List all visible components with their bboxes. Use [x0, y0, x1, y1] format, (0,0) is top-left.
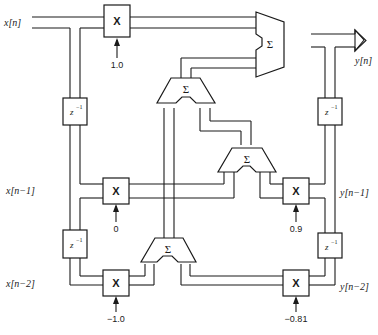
- svg-text:z: z: [324, 107, 329, 117]
- multiplier-b1: X: [103, 178, 129, 204]
- svg-text:−1: −1: [331, 104, 337, 110]
- svg-text:z: z: [69, 107, 74, 117]
- svg-text:−1: −1: [331, 239, 337, 245]
- arrow-up-icon: [113, 296, 119, 304]
- coefficient-a1: 0.9: [290, 224, 303, 234]
- svg-text:Σ: Σ: [165, 243, 171, 255]
- svg-text:X: X: [112, 277, 120, 289]
- delay-x1: z −1: [63, 98, 87, 125]
- delay-y1: z −1: [318, 98, 342, 125]
- svg-text:X: X: [292, 185, 300, 197]
- label-x-n: x[n]: [3, 17, 21, 28]
- label-y-n: y[n]: [354, 55, 372, 66]
- coefficient-b2: −1.0: [107, 314, 125, 324]
- coefficient-b1: 0: [113, 224, 118, 234]
- adder-middle: Σ: [218, 148, 276, 172]
- svg-text:X: X: [112, 185, 120, 197]
- multiplier-a2: X: [283, 270, 309, 296]
- label-x-n-1: x[n−1]: [5, 185, 35, 196]
- svg-text:z: z: [69, 240, 74, 250]
- svg-text:Σ: Σ: [183, 83, 189, 95]
- label-x-n-2: x[n−2]: [5, 278, 35, 289]
- arrow-up-icon: [293, 296, 299, 304]
- filter-diagram: X X X X X 1.0 0 −1.0 0.9 −0.81 z −1: [0, 0, 378, 335]
- coefficient-b0: 1.0: [111, 60, 124, 70]
- adder-output: Σ: [256, 12, 284, 77]
- svg-text:z: z: [324, 242, 329, 252]
- multiplier-b2: X: [103, 270, 129, 296]
- arrow-up-icon: [293, 204, 299, 212]
- adder-upper: Σ: [157, 78, 215, 103]
- coefficient-a2: −0.81: [285, 314, 308, 324]
- arrow-up-icon: [114, 38, 120, 46]
- coefficient-arrows: [113, 38, 299, 312]
- svg-text:−1: −1: [76, 104, 82, 110]
- svg-text:X: X: [292, 277, 300, 289]
- multiplier-b0: X: [104, 5, 130, 37]
- adder-lower: Σ: [141, 238, 196, 262]
- svg-text:Σ: Σ: [267, 38, 273, 50]
- label-y-n-1: y[n−1]: [339, 187, 369, 198]
- svg-text:X: X: [113, 15, 121, 27]
- svg-text:Σ: Σ: [244, 153, 250, 165]
- multiplier-a1: X: [283, 178, 309, 204]
- delay-x2: z −1: [63, 230, 87, 258]
- arrow-up-icon: [113, 204, 119, 212]
- svg-text:−1: −1: [76, 237, 82, 243]
- label-y-n-2: y[n−2]: [339, 281, 369, 292]
- delay-y2: z −1: [318, 233, 342, 258]
